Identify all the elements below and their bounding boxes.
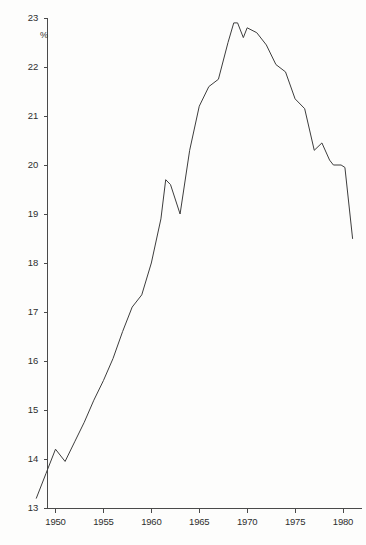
y-axis-unit-label: % xyxy=(40,30,48,40)
x-tick-label-1980: 1980 xyxy=(323,516,363,527)
chart-container: 2322212019181716151413 19501955196019651… xyxy=(0,0,366,545)
axes-group xyxy=(48,18,363,509)
y-tick-label-16: 16 xyxy=(14,355,38,366)
y-tick-label-18: 18 xyxy=(14,257,38,268)
x-tick-label-1955: 1955 xyxy=(83,516,123,527)
x-tick-label-1960: 1960 xyxy=(131,516,171,527)
y-tick-label-23: 23 xyxy=(14,12,38,23)
y-tick-label-19: 19 xyxy=(14,208,38,219)
x-tick-label-1965: 1965 xyxy=(179,516,219,527)
y-tick-label-14: 14 xyxy=(14,453,38,464)
y-tick-marks xyxy=(44,18,48,508)
y-tick-label-15: 15 xyxy=(14,404,38,415)
y-tick-label-22: 22 xyxy=(14,61,38,72)
x-tick-label-1970: 1970 xyxy=(227,516,267,527)
x-tick-label-1975: 1975 xyxy=(275,516,315,527)
y-tick-label-21: 21 xyxy=(14,110,38,121)
y-tick-label-20: 20 xyxy=(14,159,38,170)
data-line-series xyxy=(36,23,352,498)
line-chart-plot xyxy=(0,0,366,545)
y-tick-label-13: 13 xyxy=(14,502,38,513)
x-tick-label-1950: 1950 xyxy=(36,516,76,527)
y-tick-label-17: 17 xyxy=(14,306,38,317)
